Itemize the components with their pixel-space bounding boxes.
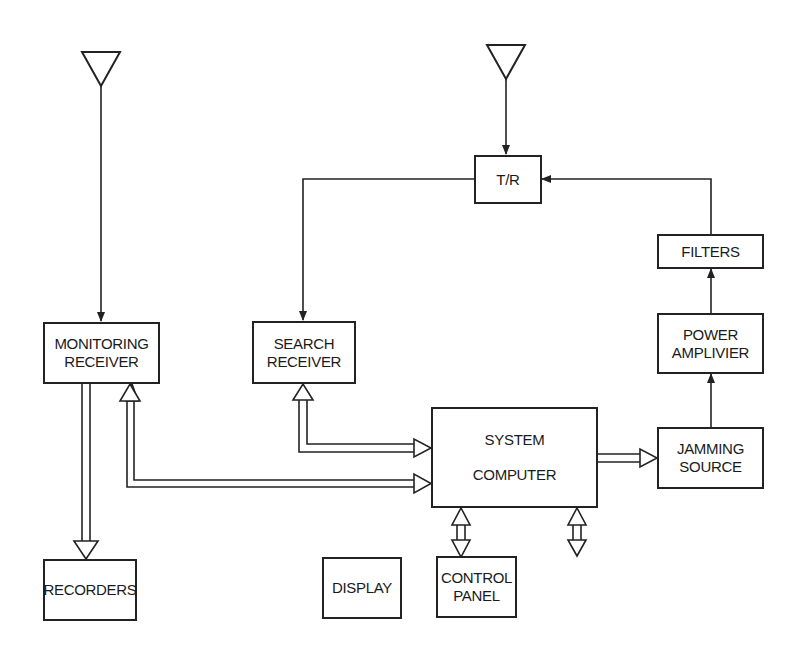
recorders-label: RECORDERS: [43, 581, 136, 599]
display-label: DISPLAY: [332, 579, 392, 597]
filters-to-tr-line: [542, 179, 711, 234]
filters-block: FILTERS: [657, 234, 764, 269]
monitoring-receiver-label-2: RECEIVER: [64, 353, 138, 371]
tr-switch-label: T/R: [496, 171, 519, 189]
monitoring-receiver-block: MONITORING RECEIVER: [43, 322, 160, 384]
system-computer-block: SYSTEM COMPUTER: [431, 407, 598, 508]
control-panel-block: CONTROL PANEL: [436, 556, 517, 618]
computer-control-panel-bus: [568, 508, 586, 556]
monitoring-antenna-icon: [82, 52, 120, 86]
display-block: DISPLAY: [322, 557, 402, 619]
power-amplifier-label-1: POWER: [683, 326, 738, 344]
jamming-source-label-2: SOURCE: [679, 458, 741, 476]
recorders-block: RECORDERS: [43, 559, 137, 621]
jamming-source-label-1: JAMMING: [677, 440, 744, 458]
filters-label: FILTERS: [681, 243, 739, 261]
tr-to-search-line: [303, 179, 474, 320]
control-panel-label-1: CONTROL: [441, 569, 512, 587]
computer-search-bus: [293, 384, 431, 457]
tr-switch-block: T/R: [474, 155, 542, 204]
search-receiver-block: SEARCH RECEIVER: [252, 321, 356, 384]
computer-monitoring-bus: [120, 384, 431, 493]
search-receiver-label-2: RECEIVER: [267, 353, 341, 371]
system-computer-label-2: COMPUTER: [473, 466, 556, 484]
computer-display-bus: [452, 508, 470, 557]
jamming-source-block: JAMMING SOURCE: [657, 427, 764, 489]
monitoring-to-recorders-bus: [74, 383, 98, 559]
search-receiver-label-1: SEARCH: [274, 335, 335, 353]
power-amplifier-label-2: AMPLIVIER: [672, 344, 749, 362]
monitoring-receiver-label-1: MONITORING: [54, 335, 148, 353]
power-amplifier-block: POWER AMPLIVIER: [657, 313, 764, 374]
tr-antenna-icon: [487, 45, 525, 79]
control-panel-label-2: PANEL: [453, 587, 500, 605]
system-computer-label-1: SYSTEM: [485, 431, 545, 449]
computer-jamming-bus: [597, 449, 657, 467]
